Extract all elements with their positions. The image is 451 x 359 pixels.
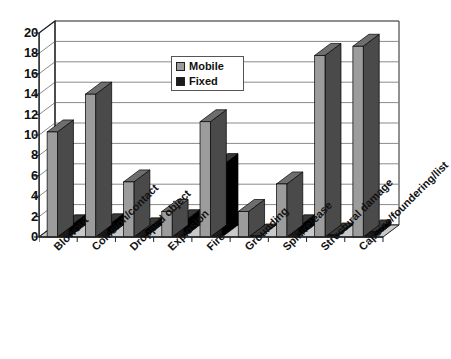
bar-mobile-1 xyxy=(85,82,111,237)
gridline-y-side xyxy=(39,82,55,94)
legend-item-fixed: Fixed xyxy=(176,74,240,89)
bar-mobile-0 xyxy=(47,120,73,237)
y-tick-label: 12 xyxy=(2,108,38,121)
plot-svg xyxy=(39,14,401,246)
legend-item-mobile: Mobile xyxy=(176,59,240,74)
legend-label-mobile: Mobile xyxy=(189,61,224,72)
y-tick-label: 6 xyxy=(2,169,38,182)
bar-mobile-0-front xyxy=(47,132,57,237)
bar-mobile-5-front xyxy=(238,212,248,238)
bar-mobile-1-front xyxy=(85,94,95,237)
legend-swatch-mobile xyxy=(176,62,185,71)
bar-mobile-1-side xyxy=(96,82,112,237)
bar-mobile-4-side xyxy=(210,110,226,237)
x-axis-category-labels: BlowoutCollision/contactDropped objectEx… xyxy=(0,243,417,359)
y-tick-label: 8 xyxy=(2,148,38,161)
y-tick-label: 2 xyxy=(2,210,38,223)
y-tick-label: 18 xyxy=(2,46,38,59)
y-tick-label: 0 xyxy=(2,230,38,243)
bar-mobile-0-side xyxy=(57,120,73,237)
y-tick-label: 20 xyxy=(2,26,38,39)
gridline-y-side xyxy=(39,41,55,53)
y-tick-label: 14 xyxy=(2,87,38,100)
y-tick-label: 16 xyxy=(2,67,38,80)
y-tick-label: 4 xyxy=(2,189,38,202)
gridline-y-side xyxy=(39,103,55,115)
gridline-y-side xyxy=(39,62,55,74)
legend-swatch-fixed xyxy=(176,77,185,86)
plot-area xyxy=(39,14,401,246)
y-tick-label: 10 xyxy=(2,128,38,141)
legend-label-fixed: Fixed xyxy=(189,76,218,87)
chart-legend: Mobile Fixed xyxy=(171,56,244,91)
